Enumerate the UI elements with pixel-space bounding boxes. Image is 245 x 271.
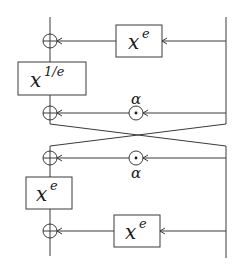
box-bottom-base: x	[125, 220, 136, 244]
alpha-label-bottom: α	[131, 164, 141, 182]
box-inverse-exp: 1/e	[44, 64, 65, 79]
box-bottom-exp: e	[139, 216, 147, 231]
box-top: x e	[116, 25, 162, 57]
alpha-label-top: α	[131, 90, 141, 108]
box-middle: x e	[26, 177, 72, 209]
xor-3-icon	[43, 151, 57, 165]
odot-2-icon	[129, 151, 143, 165]
xor-1-icon	[43, 34, 57, 48]
box-inverse: x 1/e	[18, 62, 86, 95]
feistel-diagram: x e x 1/e α α x e	[0, 0, 245, 271]
box-middle-exp: e	[50, 178, 58, 193]
odot-1-icon	[129, 106, 143, 120]
box-top-base: x	[128, 30, 139, 54]
box-inverse-base: x	[30, 68, 41, 92]
box-middle-base: x	[36, 182, 47, 206]
box-bottom: x e	[114, 215, 160, 247]
box-top-exp: e	[142, 26, 150, 41]
xor-2-icon	[43, 106, 57, 120]
xor-4-icon	[43, 224, 57, 238]
